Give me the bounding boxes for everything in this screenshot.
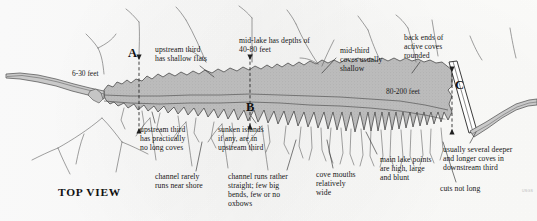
view-title: TOP VIEW	[58, 186, 121, 198]
section-marker-b: B	[246, 101, 254, 114]
annotation-mid-third-coves-shallow: mid-third coves usually shallow	[340, 46, 382, 73]
section-c-arrow-bottom	[449, 129, 454, 135]
figure-canvas: upstream third has shallow flatsmid-lake…	[0, 0, 537, 221]
annotation-channel-straight: channel runs rather straight; few big be…	[228, 172, 288, 208]
annotation-sunken-islands: sunken islands if any, are in upstream t…	[218, 125, 264, 152]
annotation-upstream-shallow-flats: upstream third has shallow flats	[155, 45, 207, 63]
tailwater-fill	[470, 99, 537, 137]
dam-crest-line	[453, 62, 473, 133]
leader-cove-mouths-wide	[327, 140, 333, 168]
leader-channel-near-shore	[196, 142, 202, 171]
leader-upstream-no-long-coves	[152, 112, 155, 123]
leader-sunken-islands	[251, 116, 256, 123]
leader-channel-straight	[287, 140, 296, 170]
annotation-channel-near-shore: channel rarely runs near shore	[155, 172, 203, 190]
depth-label-downstream-depth: 80-200 feet	[386, 88, 420, 97]
section-a-arrow-top	[136, 55, 141, 61]
annotation-cuts-not-long: cuts not long	[440, 184, 480, 193]
section-marker-a: A	[128, 47, 137, 60]
downstream-tailwater-river	[470, 99, 537, 137]
section-marker-c: C	[455, 79, 464, 92]
annotation-mid-lake-depths: mid-lake has depths of 40-80 feet	[239, 36, 310, 54]
annotation-cove-mouths-wide: cove mouths relatively wide	[316, 170, 356, 197]
annotation-upstream-no-long-coves: upstream third has practically no long c…	[140, 125, 185, 152]
annotation-main-lake-points: main lake points are high, large and blu…	[380, 155, 432, 182]
depth-label-upstream-depth: 6-30 feet	[72, 70, 98, 79]
annotation-back-ends-rounded: back ends of active coves rounded	[404, 33, 443, 60]
dam-structure	[449, 61, 477, 133]
annotation-downstream-deeper-coves: usually several deeper and longer coves …	[443, 145, 512, 172]
credit-text: USGS	[522, 189, 533, 193]
leader-main-lake-points	[366, 132, 377, 154]
